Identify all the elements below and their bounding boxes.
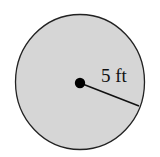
radius-label: 5 ft bbox=[101, 65, 128, 86]
center-dot bbox=[75, 78, 85, 88]
circle-diagram: 5 ft bbox=[0, 0, 160, 157]
